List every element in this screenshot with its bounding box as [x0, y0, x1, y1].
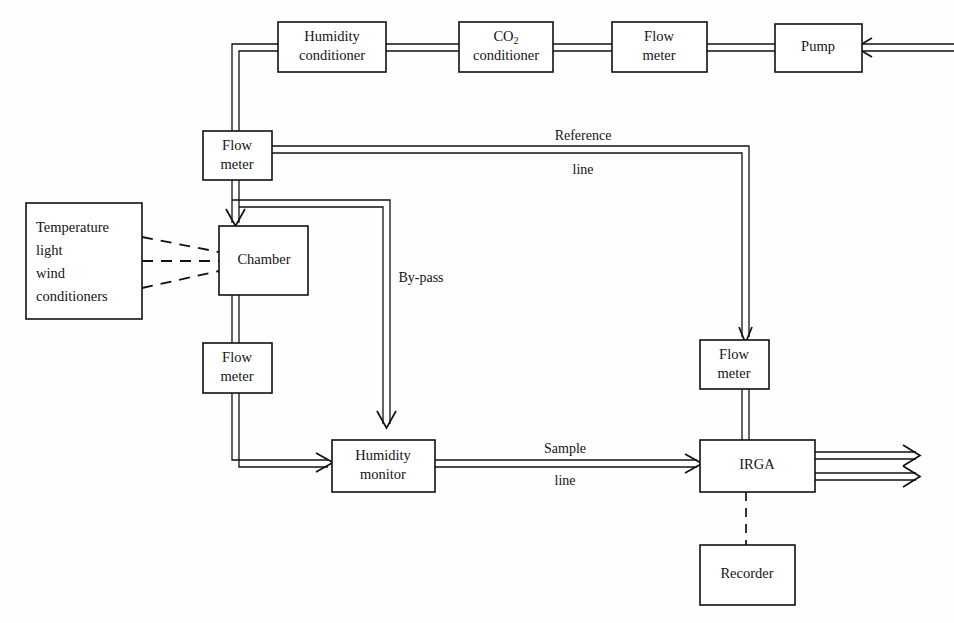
signal-conditioners-to-chamber [142, 237, 219, 288]
box-irga[interactable]: IRGA [700, 440, 815, 492]
flow-meter-right-label-line2: meter [717, 365, 750, 381]
irga-label: IRGA [739, 456, 775, 472]
flow-meter-left-lower-label-line2: meter [220, 368, 253, 384]
pump-label: Pump [801, 38, 835, 54]
pipe-irga-outlet-lower [815, 466, 920, 487]
humidity-conditioner-label-line2: conditioner [299, 47, 365, 63]
conditioners-label-line2: light [36, 242, 63, 258]
box-flow-meter-left-lower[interactable]: Flow meter [203, 343, 272, 393]
box-environment-conditioners[interactable]: Temperature light wind conditioners [26, 203, 142, 319]
conditioners-label-line4: conditioners [36, 288, 108, 304]
flow-diagram-canvas: Humidity conditioner CO2 conditioner Flo… [0, 0, 954, 623]
pipe-humidity-conditioner-to-flowmeter-left [232, 44, 278, 131]
pipe-irga-outlet-upper [815, 445, 920, 466]
pipe-flowmeter-right-to-irga [742, 389, 749, 441]
flow-diagram-svg: Humidity conditioner CO2 conditioner Flo… [0, 0, 954, 623]
humidity-monitor-label-line2: monitor [360, 466, 406, 482]
box-humidity-conditioner[interactable]: Humidity conditioner [278, 22, 386, 72]
box-humidity-monitor[interactable]: Humidity monitor [332, 440, 435, 492]
pipe-flowmeter-top-to-co2 [553, 44, 612, 51]
reference-line-label-top: Reference [555, 128, 612, 143]
box-pump[interactable]: Pump [775, 24, 862, 72]
flow-meter-top-label-line1: Flow [644, 28, 674, 44]
pipe-reference-line [272, 146, 752, 343]
co2-conditioner-label-line2: conditioner [473, 47, 539, 63]
pipe-inlet-to-pump [856, 38, 954, 57]
flow-meter-left-upper-label-line2: meter [220, 156, 253, 172]
conditioners-label-line1: Temperature [36, 219, 109, 235]
flow-meter-left-lower-label-line1: Flow [222, 349, 252, 365]
flow-meter-left-upper-label-line1: Flow [222, 137, 252, 153]
chamber-label: Chamber [237, 251, 290, 267]
pipe-co2-to-humidity-conditioner [386, 44, 459, 51]
pipe-chamber-to-flowmeter-lower [232, 295, 239, 343]
box-chamber[interactable]: Chamber [219, 226, 308, 295]
pipe-flowmeter-lower-to-humidity-monitor [232, 393, 333, 472]
sample-line-label-bottom: line [555, 473, 576, 488]
box-co2-conditioner[interactable]: CO2 conditioner [459, 22, 553, 72]
sample-line-label-top: Sample [544, 441, 586, 456]
humidity-conditioner-label-line1: Humidity [304, 28, 360, 44]
conditioners-label-line3: wind [36, 265, 66, 281]
recorder-label: Recorder [720, 565, 773, 581]
box-recorder[interactable]: Recorder [700, 545, 795, 605]
box-flow-meter-right[interactable]: Flow meter [700, 340, 769, 389]
box-flow-meter-left-upper[interactable]: Flow meter [203, 131, 272, 180]
co2-subscript: 2 [514, 35, 519, 46]
reference-line-label-bottom: line [573, 162, 594, 177]
pipe-sample-line [435, 454, 702, 473]
flow-meter-right-label-line1: Flow [719, 346, 749, 362]
flow-meter-top-label-line2: meter [642, 47, 675, 63]
humidity-monitor-label-line1: Humidity [355, 447, 411, 463]
pipe-pump-to-flowmeter-top [707, 44, 775, 51]
box-flow-meter-top[interactable]: Flow meter [612, 22, 707, 72]
pipe-flowmeter-left-to-chamber [226, 180, 245, 226]
bypass-label: By-pass [398, 270, 443, 285]
